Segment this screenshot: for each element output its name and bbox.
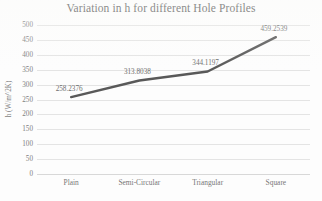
chart-container: Variation in h for different Hole Profil… — [0, 0, 322, 201]
y-axis-tick-label: 100 — [22, 140, 33, 148]
x-axis-tick-label: Semi-Circular — [118, 178, 160, 187]
x-axis-tick-label: Triangular — [192, 178, 223, 187]
x-axis-tick-label: Plain — [64, 178, 79, 187]
y-axis-tick-label: 0 — [29, 170, 33, 178]
data-point-label: 313.8038 — [124, 68, 151, 76]
gridline: 0 — [37, 174, 310, 175]
y-axis-tick-label: 200 — [22, 110, 33, 118]
y-axis-tick-label: 250 — [22, 96, 33, 104]
y-axis-tick-label: 500 — [22, 21, 33, 29]
y-axis-tick-label: 50 — [26, 155, 33, 163]
y-axis-tick-label: 300 — [22, 81, 33, 89]
series-line-chart — [37, 25, 310, 174]
y-axis-title: h (W/m^2K) — [5, 81, 13, 118]
data-point-label: 344.1197 — [192, 59, 219, 67]
series-line — [71, 37, 276, 97]
data-point-label: 258.2376 — [56, 85, 83, 93]
chart-title: Variation in h for different Hole Profil… — [0, 2, 322, 14]
plot-area: 050100150200250300350400450500 258.23763… — [37, 25, 310, 174]
y-axis-tick-label: 450 — [22, 36, 33, 44]
y-axis-tick-label: 400 — [22, 51, 33, 59]
data-point-label: 459.2539 — [260, 25, 287, 33]
x-axis-tick-label: Square — [266, 178, 287, 187]
y-axis-tick-label: 350 — [22, 66, 33, 74]
y-axis-tick-label: 150 — [22, 125, 33, 133]
